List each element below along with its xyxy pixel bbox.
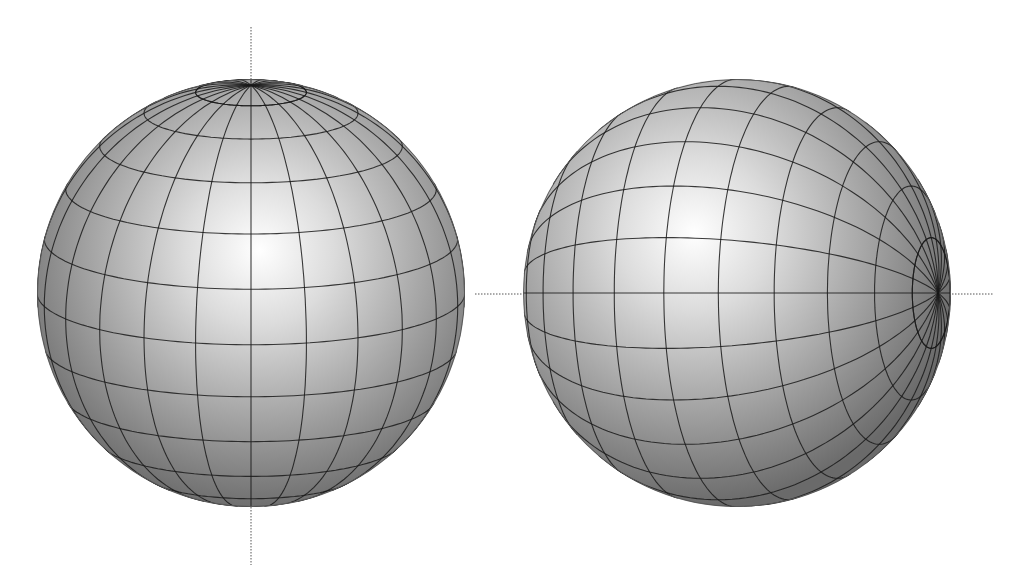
sphere-canvas (0, 0, 1023, 581)
sphere-right (475, 79, 993, 507)
sphere-left (37, 27, 465, 565)
figure-two-spheres (0, 0, 1023, 581)
